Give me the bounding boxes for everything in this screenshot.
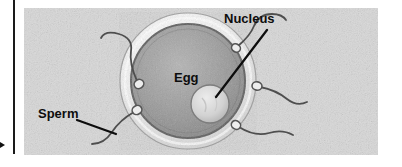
label-egg: Egg <box>174 70 199 85</box>
left-edge-arrow-marker <box>0 139 5 151</box>
egg-and-sperm-illustration <box>24 8 378 155</box>
label-nucleus: Nucleus <box>224 11 275 26</box>
figure-canvas: Nucleus Egg Sperm <box>0 0 402 167</box>
illustration-plate <box>24 8 378 155</box>
page-margin-rule <box>13 0 15 154</box>
label-sperm: Sperm <box>38 106 78 121</box>
nucleus <box>191 85 229 123</box>
